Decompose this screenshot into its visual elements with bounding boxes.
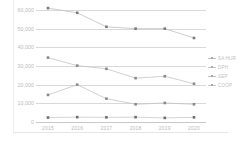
data-point-marker xyxy=(76,12,79,15)
y-axis-tick-label: 20,000 xyxy=(0,82,34,88)
series-line xyxy=(48,117,194,118)
data-point-marker xyxy=(47,94,50,97)
legend-item[interactable]: COOP xyxy=(208,81,244,90)
data-point-marker xyxy=(105,116,108,119)
data-point-marker xyxy=(76,116,79,119)
series-line xyxy=(48,58,194,84)
legend-label: SEP xyxy=(218,72,228,81)
x-axis-tick-label: 2015 xyxy=(35,125,61,131)
data-point-marker xyxy=(47,116,50,119)
y-axis-tick-label: 10,000 xyxy=(0,100,34,106)
legend-swatch-icon xyxy=(208,67,216,68)
series-line xyxy=(48,85,194,105)
y-axis-tick-label: 60,000 xyxy=(0,7,34,13)
data-point-marker xyxy=(76,64,79,67)
legend-item[interactable]: SEP xyxy=(208,72,244,81)
legend-label: DPH xyxy=(218,63,228,72)
data-point-marker xyxy=(193,103,196,106)
data-point-marker xyxy=(164,27,167,30)
data-point-marker xyxy=(47,56,50,59)
data-point-marker xyxy=(164,117,167,120)
x-axis-tick-label: 2019 xyxy=(152,125,178,131)
x-axis-tick-label: 2016 xyxy=(64,125,90,131)
series-line xyxy=(48,8,194,38)
legend-swatch-icon xyxy=(208,58,216,59)
y-axis-tick-label: 0 xyxy=(0,119,34,125)
legend-label: SA HUR xyxy=(218,54,236,63)
x-axis-tick-label: 2018 xyxy=(123,125,149,131)
data-point-marker xyxy=(105,68,108,71)
data-point-marker xyxy=(47,7,50,10)
y-axis-tick-label: 50,000 xyxy=(0,26,34,32)
legend-swatch-icon xyxy=(208,85,216,86)
chart-title xyxy=(52,0,192,6)
y-axis-labels: 010,00020,00030,00040,00050,00060,000 xyxy=(0,10,34,122)
x-axis-labels: 201520162017201820192020 xyxy=(36,125,206,135)
gridline xyxy=(36,122,206,123)
data-point-marker xyxy=(134,77,137,80)
data-point-marker xyxy=(193,37,196,40)
plot-area xyxy=(36,10,206,122)
data-point-marker xyxy=(193,82,196,85)
legend-item[interactable]: SA HUR xyxy=(208,54,244,63)
data-point-marker xyxy=(193,116,196,119)
legend-swatch-icon xyxy=(208,76,216,77)
line-chart: 010,00020,00030,00040,00050,00060,000 20… xyxy=(0,0,244,142)
legend-item[interactable]: DPH xyxy=(208,63,244,72)
data-point-marker xyxy=(105,97,108,100)
data-point-marker xyxy=(105,26,108,29)
data-point-marker xyxy=(164,102,167,105)
data-point-marker xyxy=(134,27,137,30)
series-layer xyxy=(36,10,206,122)
data-point-marker xyxy=(76,83,79,86)
x-axis-tick-label: 2020 xyxy=(181,125,207,131)
data-point-marker xyxy=(164,75,167,78)
y-axis-tick-label: 30,000 xyxy=(0,63,34,69)
legend-label: COOP xyxy=(218,81,232,90)
data-point-marker xyxy=(134,103,137,106)
y-axis-tick-label: 40,000 xyxy=(0,44,34,50)
x-axis-tick-label: 2017 xyxy=(93,125,119,131)
chart-legend: SA HURDPHSEPCOOP xyxy=(208,54,244,90)
data-point-marker xyxy=(134,116,137,119)
